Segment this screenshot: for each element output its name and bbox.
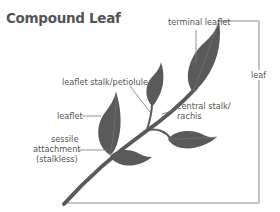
label-central-stalk: central stalk/ xyxy=(177,101,230,111)
upper-leaflet-shape xyxy=(146,62,163,106)
label-leaflet: leaflet xyxy=(57,111,83,121)
label-sessile: sessile xyxy=(51,134,77,144)
label-terminal-leaflet: terminal leaflet xyxy=(168,17,231,27)
sessile-leaflet-shape xyxy=(110,150,152,166)
compound-leaf-illustration xyxy=(0,0,280,212)
label-rachis: rachis xyxy=(177,111,202,121)
right-stalk xyxy=(148,129,170,138)
leader-lines xyxy=(79,30,196,150)
right-leaflet-shape xyxy=(168,131,217,148)
label-stalkless: (stalkless) xyxy=(36,154,77,164)
left-leaflet-shape xyxy=(98,92,120,155)
label-leaf: leaf xyxy=(250,70,267,80)
label-attachment: attachment xyxy=(33,144,77,154)
label-leaflet-stalk: leaflet stalk/petiolule xyxy=(62,77,148,87)
